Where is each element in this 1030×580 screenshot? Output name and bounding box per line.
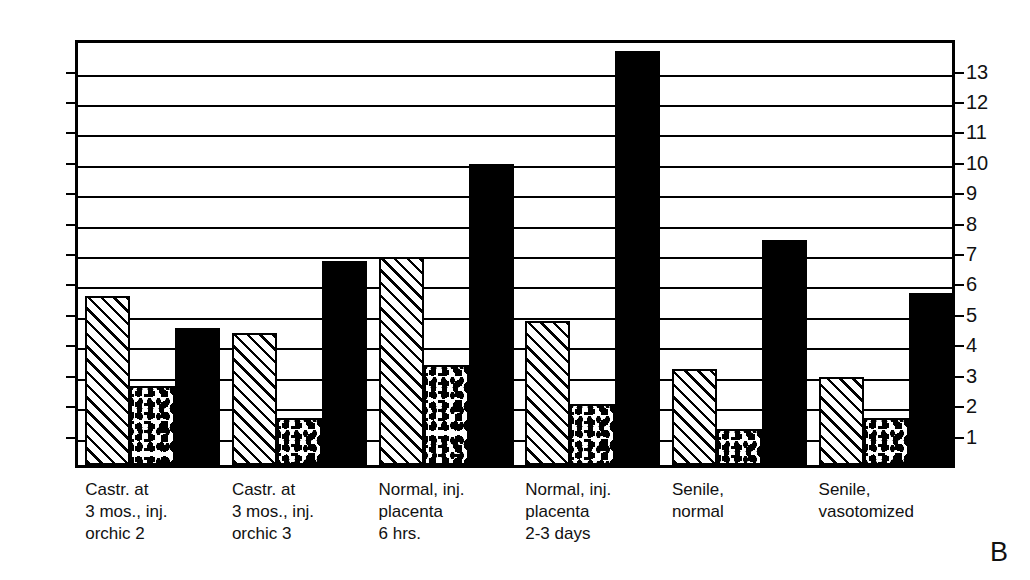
bar-group6-solid: [909, 293, 952, 465]
bar-group1-hatched: [85, 296, 130, 465]
bar-group3-hatched: [379, 257, 424, 465]
bar-group5-solid: [762, 240, 807, 465]
tick-mark-left-2: [66, 406, 75, 408]
category-label-6: Senile, vasotomized: [819, 479, 914, 523]
tick-mark-right-2: [955, 406, 964, 408]
plot-frame: [75, 40, 955, 468]
right-axis-label-7: 7: [966, 244, 977, 264]
gridline-10: [78, 166, 952, 168]
tick-mark-right-6: [955, 284, 964, 286]
tick-mark-right-3: [955, 376, 964, 378]
bar-group4-stippled: [570, 404, 615, 465]
tick-mark-right-8: [955, 224, 964, 226]
right-axis-label-4: 4: [966, 335, 977, 355]
tick-mark-right-12: [955, 102, 964, 104]
gridline-9: [78, 196, 952, 198]
tick-mark-left-7: [66, 254, 75, 256]
right-axis-label-2: 2: [966, 396, 977, 416]
tick-mark-right-4: [955, 345, 964, 347]
bar-group3-solid: [469, 164, 514, 465]
tick-mark-left-12: [66, 102, 75, 104]
gridline-7: [78, 257, 952, 259]
tick-mark-right-5: [955, 315, 964, 317]
right-axis-label-9: 9: [966, 183, 977, 203]
right-axis-label-13: 13: [966, 62, 988, 82]
tick-mark-right-11: [955, 132, 964, 134]
tick-mark-left-6: [66, 284, 75, 286]
panel-letter: B: [990, 539, 1008, 566]
tick-mark-left-13: [66, 72, 75, 74]
tick-mark-left-10: [66, 163, 75, 165]
bar-group4-solid: [615, 51, 660, 465]
category-label-1: Castr. at 3 mos., inj. orchic 2: [85, 479, 167, 545]
gridline-11: [78, 135, 952, 137]
bar-group5-hatched: [672, 369, 717, 465]
tick-mark-right-1: [955, 437, 964, 439]
right-axis-label-5: 5: [966, 305, 977, 325]
category-label-3: Normal, inj. placenta 6 hrs.: [379, 479, 465, 545]
gridline-5: [78, 318, 952, 320]
gridline-6: [78, 287, 952, 289]
tick-mark-left-11: [66, 132, 75, 134]
bar-group4-hatched: [525, 321, 570, 465]
category-label-2: Castr. at 3 mos., inj. orchic 3: [232, 479, 314, 545]
bar-chart-figure: 12345678910111213 12345678910111213 Cast…: [0, 0, 1030, 580]
right-axis-label-3: 3: [966, 366, 977, 386]
bar-group1-stippled: [130, 386, 175, 465]
right-axis-label-12: 12: [966, 92, 988, 112]
bar-group2-solid: [322, 261, 367, 465]
tick-mark-right-13: [955, 72, 964, 74]
right-axis-label-6: 6: [966, 274, 977, 294]
right-axis-label-8: 8: [966, 214, 977, 234]
bar-group5-stippled: [717, 429, 762, 466]
bar-group6-hatched: [819, 377, 864, 465]
bar-group1-solid: [175, 328, 220, 465]
gridline-12: [78, 105, 952, 107]
bar-group2-stippled: [277, 418, 322, 465]
bar-group3-stippled: [424, 365, 469, 465]
gridline-8: [78, 227, 952, 229]
tick-mark-left-8: [66, 224, 75, 226]
right-axis-label-1: 1: [966, 427, 977, 447]
category-label-5: Senile, normal: [672, 479, 724, 523]
tick-mark-left-5: [66, 315, 75, 317]
bar-group6-stippled: [864, 418, 909, 465]
category-label-4: Normal, inj. placenta 2-3 days: [525, 479, 611, 545]
tick-mark-right-7: [955, 254, 964, 256]
tick-mark-right-9: [955, 193, 964, 195]
bar-group2-hatched: [232, 333, 277, 465]
tick-mark-right-10: [955, 163, 964, 165]
tick-mark-left-9: [66, 193, 75, 195]
plot-area: [78, 43, 952, 465]
gridline-13: [78, 75, 952, 77]
tick-mark-left-3: [66, 376, 75, 378]
right-axis-label-11: 11: [966, 122, 987, 142]
right-axis-label-10: 10: [966, 153, 988, 173]
tick-mark-left-1: [66, 437, 75, 439]
tick-mark-left-4: [66, 345, 75, 347]
